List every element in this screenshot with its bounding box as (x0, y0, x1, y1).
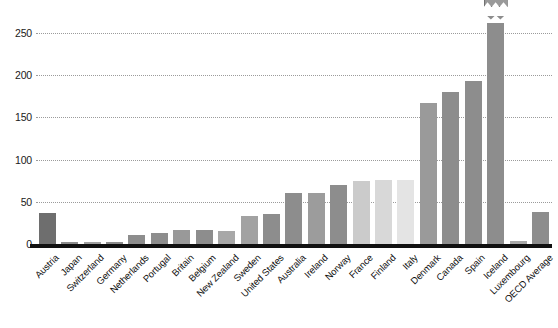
bar-cell (507, 16, 529, 244)
axis-break-icon (486, 15, 505, 23)
plot-area: 050100150200250 581 (36, 16, 552, 248)
y-axis-tick-label: 150 (15, 111, 32, 123)
x-axis-tick-label: Austria (33, 252, 61, 280)
bar-cell (36, 16, 58, 244)
bar-cell (372, 16, 394, 244)
bar-cell (305, 16, 327, 244)
bar-cell (193, 16, 215, 244)
bar (241, 216, 258, 244)
bar (39, 213, 56, 244)
bar-cell (215, 16, 237, 244)
x-axis-tick-label: Finland (368, 252, 397, 281)
bar-cell (529, 16, 551, 244)
bar (353, 181, 370, 244)
bar-cell (327, 16, 349, 244)
y-axis-tick-label: 50 (21, 196, 32, 208)
bar-cell (260, 16, 282, 244)
bar-cell (395, 16, 417, 244)
x-axis-line (30, 244, 552, 248)
bar (218, 231, 235, 244)
bar-cell (81, 16, 103, 244)
bar-cell (148, 16, 170, 244)
bar-cell (417, 16, 439, 244)
bar-value-callout: 581 (484, 0, 508, 7)
bar-cell (171, 16, 193, 244)
bar: 581 (487, 16, 504, 244)
y-axis-tick-label: 100 (15, 154, 32, 166)
bar-cell (126, 16, 148, 244)
bar (420, 103, 437, 244)
bar-cell (58, 16, 80, 244)
bar (330, 185, 347, 244)
bar (465, 81, 482, 244)
bar-cell (103, 16, 125, 244)
bar-cell: 581 (484, 16, 506, 244)
bar (442, 92, 459, 244)
bar (151, 233, 168, 244)
y-axis-tick-label: 200 (15, 69, 32, 81)
bar (375, 180, 392, 244)
bar-cell (350, 16, 372, 244)
x-axis-labels: AustriaJapanSwitzerlandGermanyNetherland… (36, 252, 552, 328)
bar-cell (462, 16, 484, 244)
bar (263, 214, 280, 244)
bar (397, 180, 414, 244)
bar (285, 193, 302, 244)
bar-cell (440, 16, 462, 244)
bar-cell (283, 16, 305, 244)
bar (128, 235, 145, 244)
bar-cell (238, 16, 260, 244)
bar (308, 193, 325, 244)
bar-chart: 050100150200250 581 AustriaJapanSwitzerl… (0, 0, 558, 328)
bar-series: 581 (36, 16, 552, 244)
bar (173, 230, 190, 244)
bar (196, 230, 213, 244)
y-axis-tick-label: 250 (15, 27, 32, 39)
bar (532, 212, 549, 244)
